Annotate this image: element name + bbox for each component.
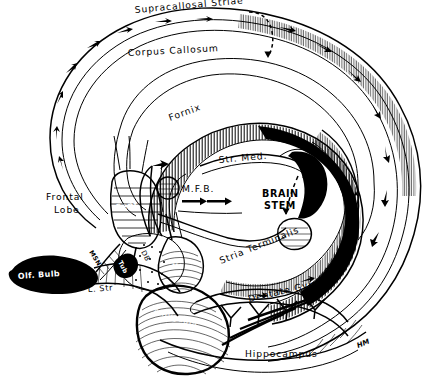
limbic-system-figure: Supracallosal Striae Corpus Callosum For… <box>0 0 433 379</box>
label-mammillary-body: M <box>172 262 179 269</box>
label-frontal-lobe-line2: Lobe <box>54 204 80 215</box>
label-medial-forebrain-bundle: M.F.B. <box>182 183 214 194</box>
label-frontal-lobe-line1: Frontal <box>46 191 84 202</box>
label-brain-stem-line1: BRAIN <box>262 188 299 199</box>
label-hippocampus: Hippocampus <box>245 348 318 359</box>
label-lateral-stria: L. Str <box>88 283 114 294</box>
figure-background <box>0 0 433 379</box>
label-brain-stem-line2: STEM <box>264 200 296 211</box>
